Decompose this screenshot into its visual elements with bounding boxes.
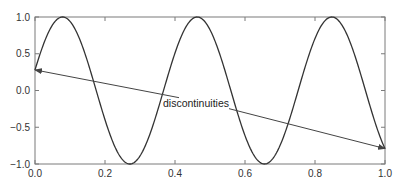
chart: 0.00.20.40.60.81.0 1.00.50.0−0.5−1.0 dis… bbox=[0, 0, 403, 189]
x-tick-label: 0.2 bbox=[98, 168, 112, 179]
axes-frame bbox=[35, 17, 385, 164]
annotation-arrow bbox=[35, 70, 179, 98]
x-tick-label: 0.8 bbox=[308, 168, 322, 179]
signal-curve bbox=[35, 17, 385, 164]
x-tick-label: 0.4 bbox=[168, 168, 182, 179]
annotation-arrow bbox=[229, 109, 385, 149]
y-tick-label: 0.0 bbox=[16, 85, 30, 96]
annotation-label: discontinuities bbox=[163, 97, 229, 109]
y-tick-label: −1.0 bbox=[10, 159, 30, 170]
y-axis-ticks: 1.00.50.0−0.5−1.0 bbox=[10, 12, 385, 170]
x-tick-label: 0.0 bbox=[28, 168, 42, 179]
plot-area: 0.00.20.40.60.81.0 1.00.50.0−0.5−1.0 dis… bbox=[10, 12, 392, 180]
x-tick-label: 1.0 bbox=[378, 168, 392, 179]
annotations: discontinuities bbox=[35, 70, 385, 149]
y-tick-label: 1.0 bbox=[16, 12, 30, 23]
y-tick-label: −0.5 bbox=[10, 122, 30, 133]
y-tick-label: 0.5 bbox=[16, 48, 30, 59]
x-tick-label: 0.6 bbox=[238, 168, 252, 179]
